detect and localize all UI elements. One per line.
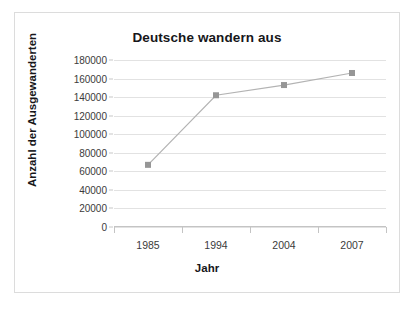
y-axis-tick-label: 160000 xyxy=(74,73,107,84)
y-axis-tick-mark xyxy=(109,189,113,190)
y-axis-tick-label: 140000 xyxy=(74,92,107,103)
data-point-marker xyxy=(349,70,355,76)
y-axis-tick-mark xyxy=(109,134,113,135)
x-axis-tick-label: 2004 xyxy=(272,239,295,251)
y-axis-tick-mark xyxy=(109,97,113,98)
y-axis-tick-label: 60000 xyxy=(79,166,107,177)
y-axis-tick-label: 120000 xyxy=(74,110,107,121)
data-point-marker xyxy=(145,162,151,168)
x-axis-tick-mark xyxy=(386,227,387,233)
y-axis-tick-label: 80000 xyxy=(79,147,107,158)
y-axis-tick-label: 100000 xyxy=(74,129,107,140)
y-axis-tick-mark xyxy=(109,78,113,79)
x-axis-tick-label: 2007 xyxy=(340,239,363,251)
y-axis-tick-label: 40000 xyxy=(79,184,107,195)
x-axis-title: Jahr xyxy=(15,262,399,274)
chart-frame: Deutsche wandern aus Anzahl der Ausgewan… xyxy=(14,12,400,293)
data-series-line xyxy=(114,60,386,227)
data-point-marker xyxy=(281,82,287,88)
y-axis-tick-mark xyxy=(109,115,113,116)
y-axis-tick-mark xyxy=(109,208,113,209)
x-axis-tick-label: 1985 xyxy=(136,239,159,251)
x-axis-tick-mark xyxy=(182,227,183,233)
y-axis-tick-mark xyxy=(109,171,113,172)
x-axis-tick-mark xyxy=(114,227,115,233)
x-axis-tick-label: 1994 xyxy=(204,239,227,251)
y-axis-title: Anzahl der Ausgewanderten xyxy=(26,30,38,190)
y-axis-tick-mark xyxy=(109,227,113,228)
series-line xyxy=(148,73,352,165)
y-axis-tick-mark xyxy=(109,152,113,153)
x-axis-tick-mark xyxy=(318,227,319,233)
x-axis-tick-mark xyxy=(250,227,251,233)
y-axis-tick-mark xyxy=(109,60,113,61)
y-axis-tick-label: 180000 xyxy=(74,55,107,66)
y-axis-tick-label: 0 xyxy=(101,222,107,233)
y-axis-tick-label: 20000 xyxy=(79,203,107,214)
chart-title: Deutsche wandern aus xyxy=(15,30,399,45)
plot-area: 1800001600001400001200001000008000060000… xyxy=(114,60,386,227)
data-point-marker xyxy=(213,92,219,98)
